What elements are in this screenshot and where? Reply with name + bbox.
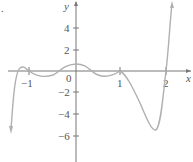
y-tick-minus-2: −2: [58, 86, 70, 98]
curve-start-arrow-icon: [170, 1, 174, 8]
x-tick-1: 1: [117, 77, 123, 89]
y-axis-arrow-icon: [74, 1, 78, 6]
y-tick-4: 4: [64, 22, 70, 34]
polynomial-graph: . x y 0 −1 1 2 4 2 −2 −4 −6: [0, 0, 193, 162]
y-tick-minus-6: −6: [58, 130, 70, 142]
part-marker: .: [1, 2, 4, 14]
function-curve: [11, 4, 172, 130]
y-tick-minus-4: −4: [58, 108, 70, 120]
x-axis-label: x: [185, 72, 191, 84]
x-tick-minus-1: −1: [21, 77, 33, 89]
curve-end-arrow-icon: [9, 126, 13, 134]
y-tick-2: 2: [64, 44, 70, 56]
y-axis-label: y: [63, 0, 69, 12]
origin-label: 0: [66, 72, 72, 84]
